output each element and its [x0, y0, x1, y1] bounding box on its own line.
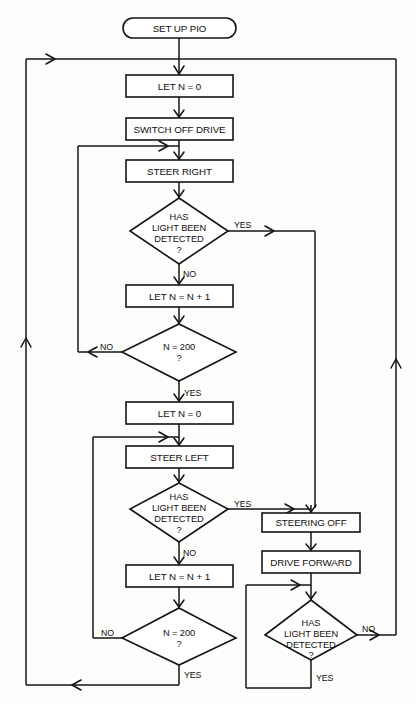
node-steer-left[interactable]: STEER LEFT — [126, 446, 233, 468]
edge-label-no-n200-b: NO — [101, 628, 114, 638]
edge-label-no-light-c: NO — [362, 624, 375, 634]
node-inc-n-b[interactable]: LET N = N + 1 — [126, 565, 233, 587]
node-let-n-0-b-label: LET N = 0 — [158, 408, 202, 419]
node-n-equals-200-b-line1: N = 200 — [163, 628, 195, 638]
node-light-detected-b-line3: DETECTED — [154, 514, 204, 524]
node-steering-off-label: STEERING OFF — [275, 517, 346, 528]
node-steering-off[interactable]: STEERING OFF — [262, 513, 360, 532]
node-steer-right-label: STEER RIGHT — [147, 166, 212, 177]
node-let-n-0-a-label: LET N = 0 — [158, 81, 202, 92]
edge-label-yes-light-c: YES — [316, 673, 334, 683]
node-n-equals-200-a[interactable]: N = 200 ? — [122, 324, 236, 381]
node-n-equals-200-b[interactable]: N = 200 ? — [122, 608, 236, 665]
flowchart-page: SET UP PIO LET N = 0 SWITCH OFF DRIVE ST… — [0, 0, 415, 705]
node-switch-off-drive[interactable]: SWITCH OFF DRIVE — [126, 118, 233, 140]
node-light-detected-a-line2: LIGHT BEEN — [152, 223, 206, 233]
node-inc-n-b-label: LET N = N + 1 — [149, 571, 210, 582]
node-light-detected-a-line1: HAS — [170, 212, 189, 222]
node-inc-n-a[interactable]: LET N = N + 1 — [126, 285, 233, 307]
node-light-detected-c-line1: HAS — [302, 618, 321, 628]
node-light-detected-c-line2: LIGHT BEEN — [284, 629, 338, 639]
edge-label-no-n200-a: NO — [100, 342, 113, 352]
node-n-equals-200-a-line2: ? — [176, 353, 181, 363]
edge-label-yes-light-b: YES — [234, 499, 252, 509]
node-drive-forward-label: DRIVE FORWARD — [270, 557, 351, 568]
node-light-detected-a-line3: DETECTED — [154, 234, 204, 244]
node-light-detected-c-line3: DETECTED — [286, 640, 336, 650]
node-let-n-0-b[interactable]: LET N = 0 — [126, 402, 233, 424]
node-steer-left-label: STEER LEFT — [150, 452, 208, 463]
node-light-detected-b-line4: ? — [176, 525, 181, 535]
node-light-detected-a[interactable]: HAS LIGHT BEEN DETECTED ? — [130, 198, 228, 264]
node-light-detected-b-line1: HAS — [170, 492, 189, 502]
node-start[interactable]: SET UP PIO — [123, 18, 236, 38]
node-drive-forward[interactable]: DRIVE FORWARD — [262, 551, 360, 573]
node-inc-n-a-label: LET N = N + 1 — [149, 291, 210, 302]
node-light-detected-a-line4: ? — [176, 245, 181, 255]
edge-label-yes-n200-a: YES — [184, 388, 202, 398]
flowchart-canvas: SET UP PIO LET N = 0 SWITCH OFF DRIVE ST… — [0, 0, 415, 705]
edge-label-yes-n200-b: YES — [184, 670, 202, 680]
node-light-detected-c-line4: ? — [308, 650, 313, 660]
node-start-label: SET UP PIO — [153, 23, 207, 34]
node-switch-off-drive-label: SWITCH OFF DRIVE — [133, 124, 226, 135]
node-light-detected-c[interactable]: HAS LIGHT BEEN DETECTED ? — [265, 600, 357, 660]
node-light-detected-b-line2: LIGHT BEEN — [152, 503, 206, 513]
node-n-equals-200-b-line2: ? — [176, 639, 181, 649]
edge-label-no-light-b: NO — [183, 548, 196, 558]
node-let-n-0-a[interactable]: LET N = 0 — [126, 75, 233, 97]
edge-label-yes-light-a: YES — [234, 220, 252, 230]
node-steer-right[interactable]: STEER RIGHT — [126, 160, 233, 182]
node-light-detected-b[interactable]: HAS LIGHT BEEN DETECTED ? — [130, 483, 228, 542]
node-n-equals-200-a-line1: N = 200 — [163, 342, 195, 352]
edge-label-no-light-a: NO — [183, 269, 196, 279]
